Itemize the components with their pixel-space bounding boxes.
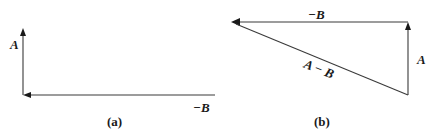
label-a-minus-b: A − B — [301, 56, 337, 82]
vector-diagram: A −B (a) −B A A − B (b) — [0, 0, 430, 138]
arrowhead-up-icon — [405, 22, 411, 30]
arrowhead-up-icon — [20, 28, 26, 36]
caption-a: (a) — [107, 114, 122, 129]
panel-a: A −B (a) — [9, 28, 215, 129]
label-neg-b: −B — [193, 100, 210, 115]
arrowhead-left-icon — [23, 92, 31, 98]
label-a: A — [9, 37, 19, 52]
vector-a-minus-b-diagonal — [236, 24, 408, 95]
caption-b: (b) — [314, 114, 330, 129]
label-a-right: A — [416, 52, 426, 67]
label-neg-b-top: −B — [308, 7, 325, 22]
panel-b: −B A A − B (b) — [231, 7, 426, 129]
